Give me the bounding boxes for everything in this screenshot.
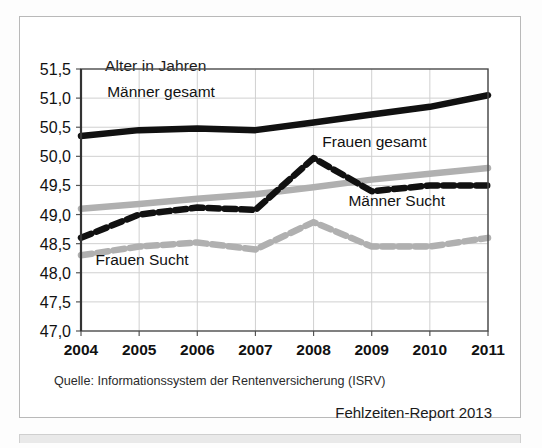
y-tick-label: 50,5 [40,119,71,136]
y-tick-label: 47,0 [40,323,71,340]
figure-card: Alter in Jahren 47,047,548,048,549,049,5… [19,16,521,418]
y-tick-label: 49,0 [40,207,71,224]
y-tick-label: 48,5 [40,236,71,253]
source-note: Quelle: Informationssystem der Rentenver… [54,374,386,388]
x-tick-label: 2006 [180,341,215,358]
x-tick-label: 2004 [64,341,99,358]
x-tick-label: 2007 [238,341,272,358]
y-tick-label: 48,0 [40,265,71,282]
line-chart: 47,047,548,048,549,049,550,050,551,051,5… [20,17,522,419]
series-label: Frauen gesamt [322,133,427,150]
bottom-strip [19,434,521,443]
x-tick-label: 2005 [122,341,157,358]
y-tick-label: 47,5 [40,294,71,311]
x-tick-label: 2010 [413,341,447,358]
screenshot-root: Alter in Jahren 47,047,548,048,549,049,5… [0,0,542,448]
x-tick-label: 2009 [354,341,389,358]
y-tick-label: 50,0 [40,148,71,165]
series-label: Männer Sucht [348,192,445,209]
y-tick-label: 51,0 [40,90,71,107]
y-tick-label: 49,5 [40,177,71,194]
x-axis-tick-labels: 20042005200620072008200920102011 [64,341,505,358]
y-tick-label: 51,5 [40,61,71,78]
y-axis-tick-labels: 47,047,548,048,549,049,550,050,551,051,5 [40,61,71,340]
series-label: Frauen Sucht [96,251,190,268]
series-label: Männer gesamt [107,83,215,100]
x-tick-label: 2011 [471,341,505,358]
series-line [81,95,488,136]
data-series-layer [81,95,488,255]
report-credit: Fehlzeiten-Report 2013 [335,404,492,421]
x-tick-label: 2008 [296,341,331,358]
